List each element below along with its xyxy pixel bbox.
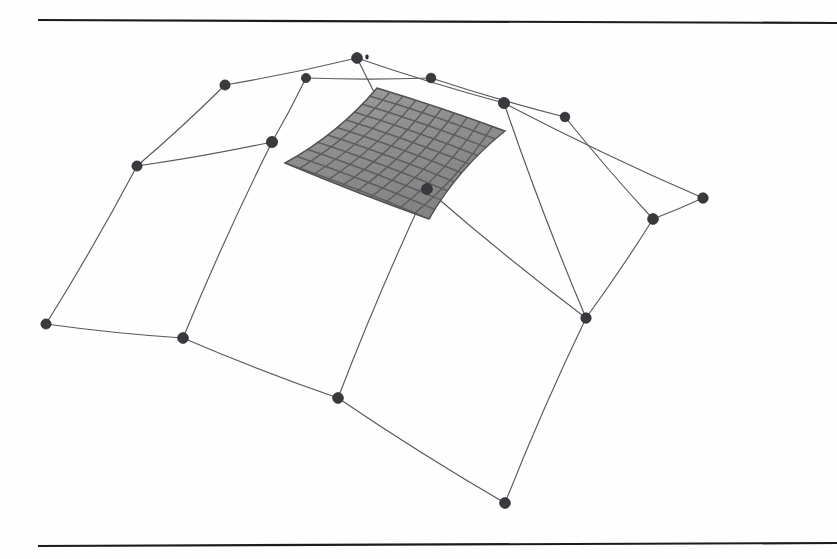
top-speck <box>365 55 368 60</box>
net-edge-p10-p02 <box>272 78 306 142</box>
net-edge-p10-p21 <box>183 142 272 338</box>
net-edge-p20-p00 <box>46 166 137 324</box>
control-point-p10 <box>266 136 277 147</box>
net-edge-p06-p12 <box>565 117 653 219</box>
surface-patch <box>285 88 505 219</box>
net-edge-p20-p21 <box>46 324 183 338</box>
page-rules <box>38 20 837 546</box>
control-point-p22 <box>333 393 344 404</box>
control-point-p23 <box>500 498 511 509</box>
bottom-rule <box>38 543 837 546</box>
net-edge-p05-p07 <box>504 103 703 198</box>
control-point-p03 <box>352 53 363 64</box>
control-point-p00 <box>132 161 142 171</box>
net-edge-p02-p04 <box>306 78 431 79</box>
net-edge-p11-p22 <box>338 189 427 398</box>
top-rule <box>38 20 837 23</box>
control-point-p04 <box>426 73 436 83</box>
control-point-p21 <box>178 333 189 344</box>
control-point-p12 <box>648 214 659 225</box>
control-point-p01 <box>220 80 230 90</box>
control-point-p07 <box>698 193 708 203</box>
control-point-p13 <box>581 313 591 323</box>
net-edge-p12-p07 <box>653 198 703 219</box>
net-edge-p01-p03 <box>225 58 357 85</box>
bspline-surface-figure <box>0 0 837 559</box>
net-edge-p13-p12 <box>586 219 653 318</box>
figure-page <box>0 0 837 559</box>
control-point-p20 <box>41 319 51 329</box>
control-point-p05 <box>498 97 509 108</box>
control-point-p02 <box>301 73 310 82</box>
net-edge-p22-p23 <box>338 398 505 503</box>
net-edge-p05-p13 <box>504 103 586 318</box>
net-edge-p21-p22 <box>183 338 338 398</box>
net-edge-p13-p23 <box>505 318 586 503</box>
control-point-p06 <box>560 112 570 122</box>
net-edge-p11-p13 <box>427 189 586 318</box>
control-point-p11 <box>422 184 433 195</box>
net-edge-p00-p10 <box>137 142 272 166</box>
